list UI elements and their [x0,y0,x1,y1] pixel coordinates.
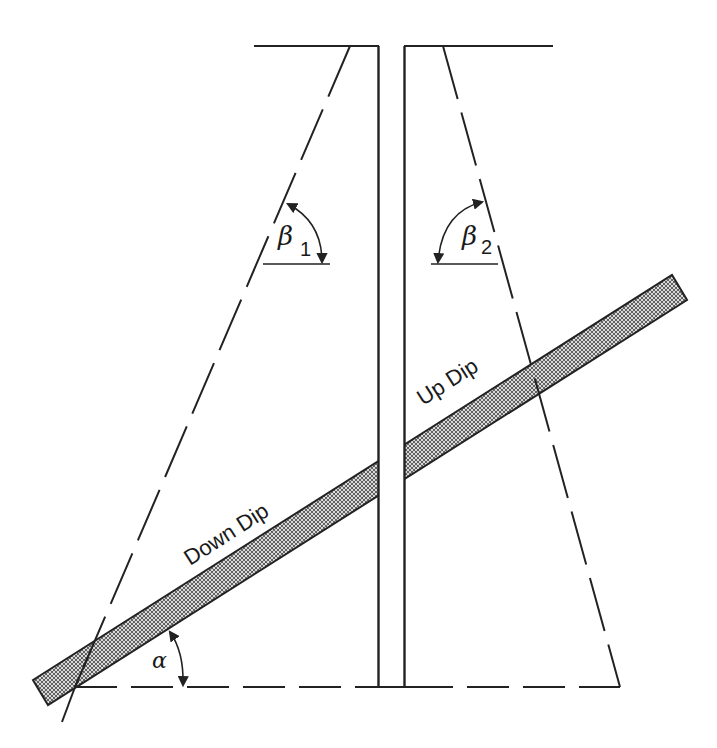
beta1-symbol: β [277,221,293,251]
beta2-symbol: β [461,221,477,251]
beta1-subscript: 1 [300,238,311,260]
dipping-bed [33,275,687,705]
beta2-subscript: 2 [481,236,492,258]
wellbore-interior [379,46,404,687]
dip-diagram: β 1 β 2 α Down Dip Up Dip [0,0,717,748]
beta1-angle: β 1 [263,204,330,264]
alpha-symbol: α [152,648,167,673]
alpha-angle: α [152,632,183,685]
